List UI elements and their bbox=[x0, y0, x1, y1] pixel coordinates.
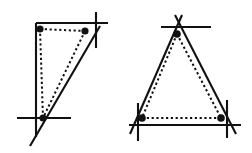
vertex-dot-bottom-right bbox=[217, 114, 225, 122]
dotted-top-edge bbox=[40, 29, 85, 31]
dotted-left-edge bbox=[40, 29, 43, 118]
right-edge bbox=[175, 15, 236, 134]
dotted-left-edge bbox=[142, 34, 177, 118]
dotted-slant-edge bbox=[43, 31, 85, 118]
vertex-dot-bottom bbox=[39, 114, 46, 121]
left-panel-right-triangle-figure bbox=[17, 12, 108, 146]
vertex-dot-apex bbox=[173, 30, 181, 38]
geometry-figure-canvas bbox=[0, 0, 252, 153]
right-panel-inner-dotted-triangle bbox=[142, 34, 221, 118]
dotted-right-edge bbox=[177, 34, 221, 118]
right-panel-isosceles-triangle-figure bbox=[129, 15, 241, 141]
vertex-dot-bottom-left bbox=[138, 114, 146, 122]
geometry-figure-svg bbox=[0, 0, 252, 153]
vertex-dot-top-left bbox=[36, 25, 43, 32]
left-panel-inner-dotted-triangle bbox=[40, 29, 85, 118]
vertex-dot-top-right bbox=[81, 27, 88, 34]
